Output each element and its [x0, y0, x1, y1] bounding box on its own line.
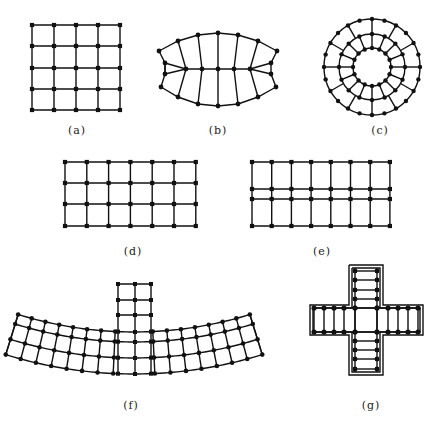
panel-c-ring-mesh [322, 17, 422, 117]
panel-label-f: (f) [123, 399, 139, 412]
panel-label-e: (e) [313, 245, 331, 258]
panel-b-lens-mesh [157, 31, 280, 109]
panel-g-cross-mesh [310, 265, 423, 375]
panel-label-c: (c) [371, 124, 389, 137]
panel-e-banded-grid [250, 160, 392, 228]
panel-label-b: (b) [209, 124, 228, 137]
mesh-figure [0, 0, 445, 423]
panel-label-a: (a) [68, 124, 86, 137]
panel-a-square-grid [30, 23, 122, 112]
panel-label-d: (d) [124, 245, 143, 258]
panel-label-g: (g) [362, 399, 381, 412]
panel-d-rect-grid [63, 160, 198, 228]
panel-f-arc-mesh [3, 282, 264, 376]
